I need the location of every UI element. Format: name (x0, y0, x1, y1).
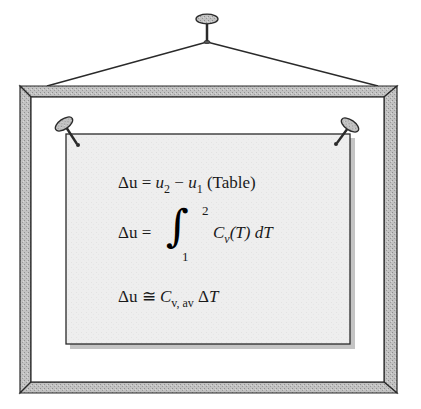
eq1-lhs: Δu (118, 173, 137, 192)
framed-note-figure: Δu = u2 − u1 (Table) Δu = ∫ 2 1 Cv(T) dT… (0, 0, 421, 409)
eq2-upper-limit: 2 (202, 204, 209, 217)
eq3-coef-sub: v, av (171, 296, 194, 310)
eq2-integrand-arg: (T) (230, 223, 251, 242)
eq2-lower-limit: 1 (182, 250, 189, 263)
eq1-term2-sub: 1 (197, 182, 203, 196)
eq2-lhs: Δu (118, 223, 137, 242)
wall-nail-icon (196, 14, 218, 43)
paper-sheet (66, 134, 355, 349)
hanging-wire (47, 42, 378, 86)
eq1-minus: − (174, 173, 184, 192)
eq1-term1: u (156, 173, 165, 192)
integral-sign-icon: ∫ (166, 204, 189, 248)
eq3-op: ≅ (142, 287, 156, 306)
equation-delta-u-average: Δu ≅ Cv, av ΔT (118, 288, 218, 305)
eq2-differential: dT (255, 223, 273, 242)
eq2-integrand-sub: v (224, 232, 229, 246)
eq3-coef: C (160, 287, 171, 306)
eq2-integrand: Cv(T) dT (213, 224, 273, 241)
eq2-integrand-var: C (213, 223, 224, 242)
frame-artwork (0, 0, 421, 409)
eq1-note: (Table) (207, 173, 256, 192)
eq3-lhs: Δu (118, 287, 137, 306)
eq1-term2: u (188, 173, 197, 192)
eq1-op: = (142, 173, 152, 192)
equation-delta-u-table: Δu = u2 − u1 (Table) (118, 174, 256, 191)
eq1-term1-sub: 2 (164, 182, 170, 196)
equation-delta-u-integral: Δu = (118, 224, 151, 241)
eq3-var: T (209, 287, 218, 306)
eq3-delta: Δ (198, 287, 209, 306)
eq2-op: = (142, 223, 152, 242)
